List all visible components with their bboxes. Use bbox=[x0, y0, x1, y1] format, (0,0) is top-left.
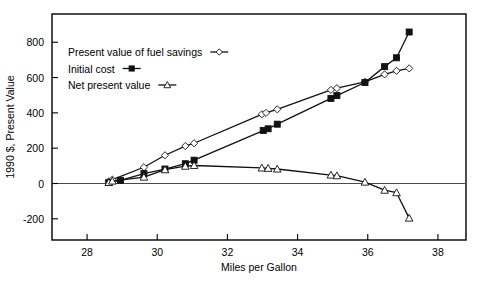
x-tick-label: 30 bbox=[151, 246, 163, 258]
legend-item-label: Net present value bbox=[68, 79, 150, 91]
chart-background bbox=[0, 0, 481, 290]
y-tick-label: 400 bbox=[26, 107, 44, 119]
data-point-marker bbox=[274, 121, 280, 127]
y-tick-label: -200 bbox=[23, 213, 44, 225]
legend-item-label: Present value of fuel savings bbox=[68, 46, 202, 58]
data-point-marker bbox=[334, 93, 340, 99]
data-point-marker bbox=[265, 126, 271, 132]
x-tick-label: 32 bbox=[222, 246, 234, 258]
data-point-marker bbox=[362, 80, 368, 86]
data-point-marker bbox=[382, 64, 388, 70]
legend-item-label: Initial cost bbox=[68, 63, 115, 75]
chart-container: 283032343638 -2000200400600800 Miles per… bbox=[0, 0, 481, 290]
x-axis-title: Miles per Gallon bbox=[221, 261, 297, 273]
data-point-marker bbox=[394, 55, 400, 61]
y-tick-label: 600 bbox=[26, 72, 44, 84]
x-tick-label: 34 bbox=[292, 246, 304, 258]
x-tick-label: 38 bbox=[432, 246, 444, 258]
y-tick-label: 200 bbox=[26, 142, 44, 154]
data-point-marker bbox=[406, 29, 412, 35]
y-tick-label: 800 bbox=[26, 36, 44, 48]
y-tick-label: 0 bbox=[38, 178, 44, 190]
data-point-marker bbox=[328, 95, 334, 101]
fuel-economy-present-value-chart: 283032343638 -2000200400600800 Miles per… bbox=[0, 0, 481, 290]
data-point-marker bbox=[129, 66, 134, 71]
x-tick-label: 36 bbox=[362, 246, 374, 258]
y-axis-title: 1990 $, Present Value bbox=[4, 75, 16, 178]
x-tick-label: 28 bbox=[81, 246, 93, 258]
